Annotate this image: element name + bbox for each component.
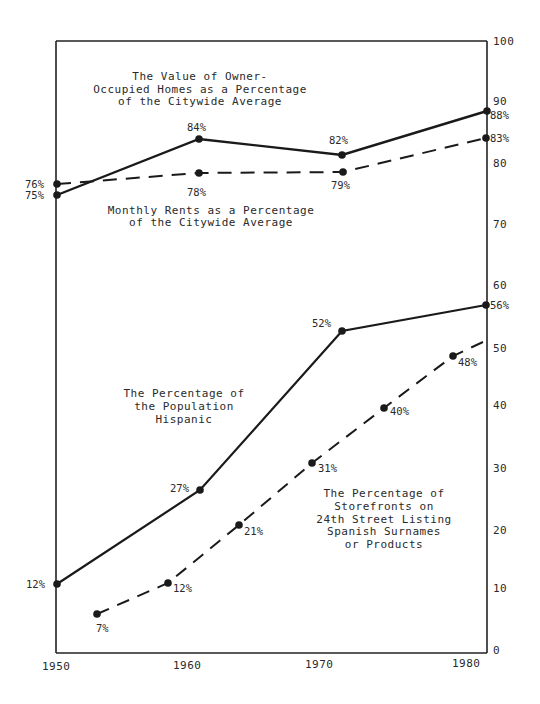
series-homes-value: 75% 84% 82% 88% (25, 107, 510, 201)
y-tick: 60 (493, 279, 507, 292)
point-label: 56% (490, 299, 510, 311)
caption-line: of the Citywide Average (129, 216, 293, 229)
point-label: 48% (458, 356, 478, 368)
caption-line: Spanish Surnames (327, 525, 441, 538)
point-label: 12% (26, 578, 46, 590)
caption-monthly-rents: Monthly Rents as a Percentage of the Cit… (108, 204, 315, 229)
point-label: 12% (173, 582, 193, 594)
caption-homes-value: The Value of Owner- Occupied Homes as a … (93, 70, 307, 108)
y-tick: 0 (493, 644, 500, 657)
point-label: 21% (244, 525, 264, 537)
point-label: 84% (187, 121, 207, 133)
caption-line: The Percentage of (323, 487, 444, 500)
y-tick: 80 (493, 157, 507, 170)
x-axis-ticks: 1950 1960 1970 1980 (42, 657, 481, 673)
point-label: 40% (390, 405, 410, 417)
x-tick: 1950 (42, 660, 71, 673)
y-axis-ticks: 100 90 80 70 60 50 40 30 20 10 0 (493, 35, 514, 657)
point-label: 31% (318, 462, 338, 474)
y-tick: 70 (493, 218, 507, 231)
y-tick: 10 (493, 582, 507, 595)
point-label: 88% (490, 109, 510, 121)
chart-canvas: 100 90 80 70 60 50 40 30 20 10 0 1950 19… (0, 0, 540, 704)
y-tick: 40 (493, 399, 507, 412)
caption-storefronts: The Percentage of Storefronts on 24th St… (316, 487, 451, 551)
point-label: 79% (331, 179, 351, 191)
point-label: 7% (96, 622, 109, 634)
y-tick: 100 (493, 35, 514, 48)
caption-population-hispanic: The Percentage of the Population Hispani… (123, 387, 244, 426)
caption-line: Hispanic (156, 413, 213, 426)
point-label: 52% (312, 317, 332, 329)
x-tick: 1960 (173, 659, 202, 672)
y-tick: 20 (493, 524, 507, 537)
point-label: 27% (170, 482, 190, 494)
series-monthly-rents: 76% 78% 79% 83% (25, 132, 510, 198)
chart-figure: 100 90 80 70 60 50 40 30 20 10 0 1950 19… (0, 0, 540, 704)
x-tick: 1970 (305, 658, 334, 671)
caption-line: The Value of Owner- (132, 70, 267, 83)
caption-line: Storefronts on (334, 500, 434, 513)
plot-frame (56, 41, 487, 653)
point-label: 83% (490, 132, 510, 144)
point-label: 82% (329, 134, 349, 146)
caption-line: or Products (345, 538, 423, 551)
y-tick: 30 (493, 462, 507, 475)
point-label: 76% (25, 178, 45, 190)
point-label: 78% (187, 186, 207, 198)
y-tick: 90 (493, 95, 507, 108)
y-tick: 50 (493, 342, 507, 355)
x-tick: 1980 (452, 657, 481, 670)
caption-line: of the Citywide Average (118, 95, 282, 108)
caption-line: The Percentage of (123, 387, 244, 400)
series-population-hispanic: 12% 27% 52% 56% (26, 299, 510, 590)
point-label: 75% (25, 189, 45, 201)
caption-line: the Population (134, 400, 234, 413)
